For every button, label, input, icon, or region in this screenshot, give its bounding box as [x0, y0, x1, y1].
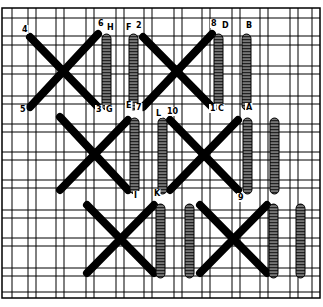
point-label: 5: [20, 105, 26, 114]
point-label: D: [222, 21, 229, 30]
point-label: F: [126, 23, 131, 32]
point-label: B: [246, 21, 252, 30]
point-label: A: [246, 103, 253, 112]
point-label: K: [154, 189, 161, 198]
point-label: 1: [210, 104, 216, 113]
point-label: I: [134, 191, 137, 200]
point-label: 8: [211, 19, 217, 28]
point-label: 4: [22, 25, 28, 34]
point-label: C: [218, 104, 224, 113]
point-label: 3: [96, 105, 102, 114]
point-label: 10: [167, 107, 179, 116]
point-label: 9: [238, 193, 244, 202]
point-label: L: [156, 109, 161, 118]
stitch-diagram: 46HF28DB53GE7L101CAIK9: [0, 0, 323, 307]
point-label: E: [126, 101, 131, 110]
point-label: 7: [136, 103, 142, 112]
point-label: 2: [136, 21, 142, 30]
point-label: H: [107, 23, 114, 32]
point-label: 6: [98, 19, 104, 28]
diagram-canvas: 46HF28DB53GE7L101CAIK9: [0, 0, 323, 307]
point-label: G: [106, 105, 113, 114]
